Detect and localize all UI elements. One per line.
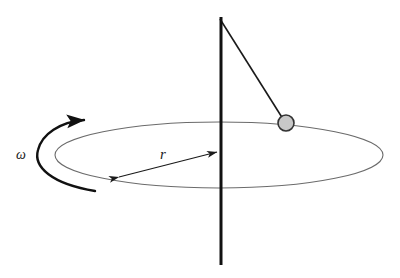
angular-velocity-label: ω: [16, 147, 26, 162]
pendulum-bob: [278, 115, 294, 131]
conical-pendulum-figure: r ω: [0, 0, 400, 278]
background-rect: [0, 0, 400, 278]
radius-label: r: [160, 146, 166, 162]
diagram-canvas: r ω: [0, 0, 400, 278]
